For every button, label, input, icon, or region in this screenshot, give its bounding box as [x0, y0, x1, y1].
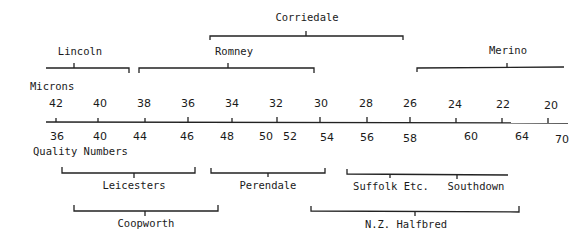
breed-label-leicesters: Leicesters: [102, 179, 165, 191]
quality-value: 44: [133, 131, 147, 143]
micron-value: 26: [403, 98, 417, 110]
coopworth-bracket: [74, 205, 218, 216]
scale-axis: [46, 117, 568, 123]
lincoln-bracket: [46, 63, 129, 73]
quality-value: 36: [50, 131, 64, 143]
micron-value: 20: [544, 100, 558, 112]
microns-heading: Microns: [30, 80, 74, 92]
micron-value: 42: [49, 98, 63, 110]
perendale-bracket: [211, 168, 325, 177]
breed-label-corriedale: Corriedale: [275, 11, 338, 23]
micron-value: 28: [359, 98, 373, 110]
breed-label-lincoln: Lincoln: [58, 45, 102, 57]
quality-value: 60: [464, 131, 478, 143]
breed-label-nz-halfbred: N.Z. Halfbred: [365, 218, 447, 230]
micron-value: 40: [93, 98, 107, 110]
micron-value: 32: [269, 98, 283, 110]
romney-bracket: [139, 63, 314, 73]
leicesters-bracket: [62, 167, 195, 178]
quality-value: 64: [515, 131, 529, 143]
breed-label-southdown: Southdown: [448, 180, 505, 192]
breed-label-merino: Merino: [489, 44, 527, 56]
breed-label-romney: Romney: [215, 45, 253, 57]
quality-value: 50: [259, 131, 273, 143]
micron-value: 24: [448, 99, 462, 111]
quality-value: 46: [180, 131, 194, 143]
quality-value: 56: [360, 132, 374, 144]
diagram-lines: [0, 0, 587, 243]
breed-label-perendale: Perendale: [240, 179, 297, 191]
micron-value: 34: [225, 98, 239, 110]
micron-value: 38: [137, 98, 151, 110]
micron-value: 30: [314, 98, 328, 110]
nz-halfbred-bracket: [311, 206, 519, 216]
quality-value: 40: [93, 131, 107, 143]
quality-value: 52: [283, 131, 297, 143]
quality-value: 70: [555, 134, 569, 146]
quality-value: 58: [403, 133, 417, 145]
quality-value: 54: [320, 132, 334, 144]
quality-numbers-heading: Quality Numbers: [33, 145, 128, 157]
quality-value: 48: [220, 131, 234, 143]
micron-value: 36: [181, 98, 195, 110]
corriedale-bracket: [210, 31, 403, 40]
suffolk-southdown-bracket: [347, 169, 508, 179]
breed-label-suffolk-etc: Suffolk Etc.: [353, 180, 429, 192]
merino-bracket: [417, 63, 564, 72]
micron-value: 22: [496, 99, 510, 111]
breed-label-coopworth: Coopworth: [118, 217, 175, 229]
